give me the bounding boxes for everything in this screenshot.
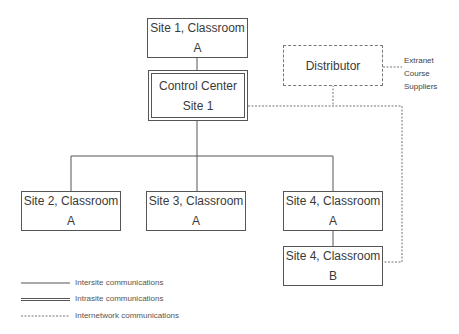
note-line: Extranet: [404, 54, 437, 67]
node-label: Site 2, Classroom A: [22, 191, 120, 231]
node-label: Site 1, Classroom A: [148, 18, 247, 58]
legend-internetwork: Internetwork communications: [75, 311, 179, 320]
site4-classroom-a-node: Site 4, Classroom A: [283, 191, 383, 231]
site3-classroom-a-node: Site 3, Classroom A: [146, 191, 246, 231]
node-label: Distributor: [306, 56, 361, 76]
node-label: Site 3, Classroom A: [147, 191, 245, 231]
site2-classroom-a-node: Site 2, Classroom A: [21, 191, 121, 231]
node-label: Control Center: [159, 76, 237, 96]
node-sublabel: Site 1: [183, 96, 214, 116]
node-label: Site 4, Classroom A: [284, 191, 382, 231]
extranet-note: Extranet Course Suppliers: [404, 54, 437, 93]
site1-classroom-a-node: Site 1, Classroom A: [147, 18, 248, 58]
distributor-node: Distributor: [283, 45, 383, 86]
site4-classroom-b-node: Site 4, Classroom B: [283, 246, 383, 286]
control-center-node: Control Center Site 1: [148, 70, 248, 121]
legend-intersite: Intersite communications: [75, 278, 163, 287]
legend-intrasite: Intrasite communications: [75, 294, 163, 303]
node-label: Site 4, Classroom B: [284, 246, 382, 286]
note-line: Course: [404, 67, 437, 80]
note-line: Suppliers: [404, 80, 437, 93]
